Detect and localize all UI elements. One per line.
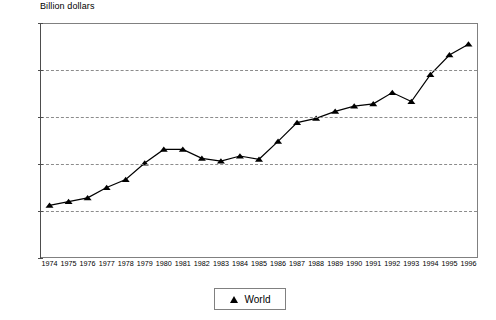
x-tick-label-1991: 1991 — [365, 259, 381, 268]
y-tick-100 — [38, 211, 43, 212]
x-tick-label-1994: 1994 — [422, 259, 438, 268]
triangle-marker-icon — [230, 296, 238, 303]
gridline-100 — [41, 211, 477, 212]
gridline-300 — [41, 117, 477, 118]
x-tick-label-1992: 1992 — [384, 259, 400, 268]
x-tick-label-1978: 1978 — [118, 259, 134, 268]
x-tick-label-1976: 1976 — [80, 259, 96, 268]
x-tick-label-1988: 1988 — [308, 259, 324, 268]
y-axis-line — [40, 23, 41, 258]
x-tick-label-1985: 1985 — [251, 259, 267, 268]
x-tick-label-1986: 1986 — [270, 259, 286, 268]
x-tick-label-1977: 1977 — [99, 259, 115, 268]
x-tick-label-1975: 1975 — [61, 259, 77, 268]
x-tick-label-1979: 1979 — [137, 259, 153, 268]
x-tick-label-1984: 1984 — [232, 259, 248, 268]
y-tick-300 — [38, 117, 43, 118]
y-tick-400 — [38, 70, 43, 71]
x-tick-label-1981: 1981 — [175, 259, 191, 268]
gridline-400 — [41, 70, 477, 71]
chart-legend: World — [214, 288, 286, 310]
x-tick-label-1993: 1993 — [403, 259, 419, 268]
y-axis-title: Billion dollars — [40, 1, 95, 11]
y-tick-500 — [38, 23, 43, 24]
x-tick-label-1987: 1987 — [289, 259, 305, 268]
plot-area — [40, 23, 478, 258]
gridline-200 — [41, 164, 477, 165]
chart-container: Billion dollars 0100200300400500 1974197… — [0, 0, 496, 320]
x-tick-label-1996: 1996 — [460, 259, 476, 268]
x-tick-label-1980: 1980 — [156, 259, 172, 268]
x-tick-label-1983: 1983 — [213, 259, 229, 268]
x-tick-label-1989: 1989 — [327, 259, 343, 268]
x-axis-labels: 1974197519761977197819791980198119821983… — [0, 259, 496, 275]
x-tick-label-1982: 1982 — [194, 259, 210, 268]
gridlines-layer — [41, 24, 477, 257]
x-tick-label-1974: 1974 — [42, 259, 58, 268]
x-tick-label-1990: 1990 — [346, 259, 362, 268]
y-tick-200 — [38, 164, 43, 165]
x-tick-label-1995: 1995 — [441, 259, 457, 268]
legend-item-label: World — [245, 294, 271, 305]
